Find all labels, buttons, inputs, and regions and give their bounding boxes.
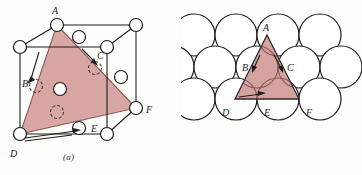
label-A-panel-a: A (51, 5, 59, 16)
atom-corner-A (51, 19, 64, 32)
atom-face-front (54, 83, 67, 96)
label-C-panel-a: C (97, 50, 104, 61)
label-D-panel-b: D (221, 107, 230, 118)
atom-corner-front-bottom-right (101, 128, 114, 141)
atom-corner-F (130, 102, 143, 115)
panel-fcc-unit-cell: A B C D E F (a) (0, 0, 181, 175)
atom-corner-D (14, 128, 27, 141)
close-packed-plane-svg: A B C D E F (181, 0, 362, 175)
label-E-panel-b: E (263, 107, 270, 118)
arrow-D-to-E-line2 (25, 135, 72, 141)
label-B-panel-a: B (22, 78, 28, 89)
figure-root: A B C D E F (a) (0, 0, 362, 175)
caption-panel-a: (a) (63, 152, 74, 162)
label-A-panel-b: A (262, 22, 270, 33)
arrow-to-B-head (27, 76, 35, 84)
fcc-unit-cell-svg: A B C D E F (0, 0, 181, 175)
atom-face-right (115, 71, 128, 84)
label-B-panel-b: B (242, 62, 248, 73)
label-C-panel-b: C (287, 62, 294, 73)
panel-close-packed-plane: A B C D E F (b) (181, 0, 362, 175)
label-F-panel-a: F (145, 104, 153, 115)
atom-face-top (73, 31, 86, 44)
atom-corner-back-top-right (130, 19, 143, 32)
label-E-panel-a: E (90, 123, 97, 134)
atom-face-bottom-E (73, 122, 86, 135)
label-D-panel-a: D (9, 148, 18, 159)
arrow-to-B-line (31, 52, 39, 79)
atom-corner-front-top-left (14, 41, 27, 54)
label-F-panel-b: F (305, 107, 313, 118)
